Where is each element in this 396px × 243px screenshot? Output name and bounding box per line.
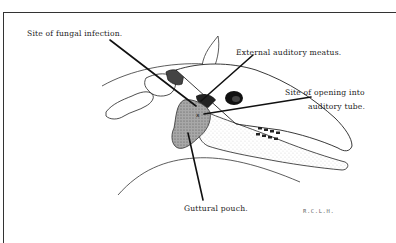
label-fungal-infection: Site of fungal infection.: [27, 29, 122, 38]
label-opening-line1: Site of opening into: [285, 88, 365, 97]
leader-guttural-pouch: [188, 133, 203, 200]
artist-signature: R.C.L.H.: [303, 208, 334, 214]
label-opening-line2: auditory tube.: [308, 102, 365, 111]
label-guttural-pouch: Guttural pouch.: [184, 204, 248, 213]
neck-ventral-line: [118, 158, 300, 195]
opening-marker: x: [196, 111, 200, 118]
ear: [202, 36, 219, 68]
label-external-auditory-meatus: External auditory meatus.: [236, 48, 341, 57]
cervical-vertebrae: [106, 70, 184, 119]
